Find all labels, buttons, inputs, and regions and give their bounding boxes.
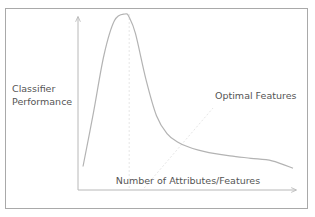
optimal-features-annotation: Optimal Features [215,90,297,101]
chart: Classifier Performance Optimal Features … [0,0,315,217]
y-axis-label-line-1: Classifier [12,83,55,94]
y-axis-label-line-2: Performance [12,96,72,107]
x-axis-label: Number of Attributes/Features [116,175,260,186]
